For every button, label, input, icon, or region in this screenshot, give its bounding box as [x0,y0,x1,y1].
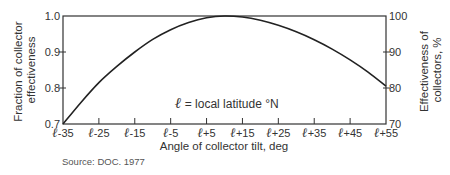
x-tick-label: ℓ-5 [163,125,178,140]
x-tick-label: ℓ+25 [266,125,290,140]
y2-tick-label: 70 [389,118,401,130]
x-axis-title: Angle of collector tilt, deg [160,140,289,152]
y-tick-label: 0.9 [45,46,60,58]
x-tick-label: ℓ+35 [302,125,326,140]
x-tick-label: ℓ+15 [230,125,254,140]
y-axis-title-line1: Fraction of collector [12,21,24,122]
y-axis-title: Fraction of collector effectiveness [12,18,37,122]
y2-axis-title: Effectiveness of collectors, % [418,28,443,112]
y2-axis-ticks: 708090100 [383,10,407,130]
y2-axis-title-line1: Effectiveness of [418,30,430,112]
y2-tick-label: 100 [389,10,407,22]
latitude-annotation: ℓ = local latitude °N [175,95,279,111]
y2-axis-title-line2: collectors, % [431,37,443,102]
x-axis-ticks: ℓ-35ℓ-25ℓ-15ℓ-5ℓ+5ℓ+15ℓ+25ℓ+35ℓ+45ℓ+55 [52,118,398,140]
y-tick-label: 0.8 [45,82,60,94]
y2-tick-label: 90 [389,46,401,58]
x-tick-label: ℓ-15 [124,125,145,140]
x-tick-label: ℓ+45 [338,125,362,140]
y-axis-title-line2: effectiveness [25,36,37,103]
source-note: Source: DOC. 1977 [62,156,145,167]
y-tick-label: 1.0 [45,10,60,22]
y2-tick-label: 80 [389,82,401,94]
y-tick-label: 0.7 [45,118,60,130]
effectiveness-chart: ℓ-35ℓ-25ℓ-15ℓ-5ℓ+5ℓ+15ℓ+25ℓ+35ℓ+45ℓ+55 0… [0,0,450,175]
x-tick-label: ℓ-25 [88,125,109,140]
x-tick-label: ℓ+5 [198,125,216,140]
